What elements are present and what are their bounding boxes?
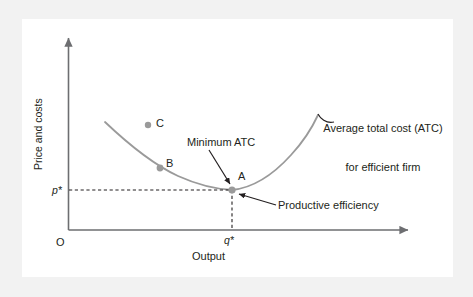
point-b-label: B bbox=[166, 157, 173, 170]
atc-curve bbox=[105, 115, 318, 190]
atc-curve-annotation-line2: for efficient firm bbox=[318, 161, 448, 174]
atc-curve-annotation: Average total cost (ATC) for efficient f… bbox=[318, 96, 448, 200]
point-a-marker bbox=[228, 186, 235, 193]
price-tick-label: p* bbox=[52, 184, 62, 196]
minimum-atc-annotation: Minimum ATC bbox=[187, 136, 255, 149]
quantity-tick-label: q* bbox=[224, 234, 234, 246]
point-a-label: A bbox=[238, 170, 245, 183]
productive-efficiency-annotation: Productive efficiency bbox=[278, 199, 379, 212]
minimum-atc-leader-arrow bbox=[209, 150, 230, 184]
origin-label: O bbox=[56, 236, 65, 249]
y-axis-title: Price and costs bbox=[32, 74, 44, 194]
point-c-label: C bbox=[156, 117, 164, 130]
atc-curve-annotation-line1: Average total cost (ATC) bbox=[318, 122, 448, 135]
x-axis-title: Output bbox=[192, 250, 225, 263]
point-b-marker bbox=[157, 165, 164, 172]
point-c-marker bbox=[145, 122, 151, 128]
productive-efficiency-leader-arrow bbox=[239, 194, 276, 205]
economics-diagram-figure: Price and costs Output O p* q* A B C Min… bbox=[0, 0, 473, 297]
